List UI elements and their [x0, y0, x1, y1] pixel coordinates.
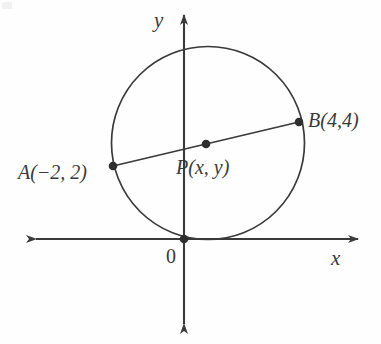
- point-b-label: B(4,4): [308, 110, 359, 130]
- point-b-marker: [295, 118, 304, 127]
- y-axis-label: y: [154, 10, 163, 31]
- point-p-label: P(x, y): [176, 157, 229, 177]
- geometry-figure: y x 0 A(−2, 2) B(4,4) P(x, y): [0, 0, 381, 344]
- origin-label: 0: [166, 246, 176, 266]
- point-a-marker: [109, 162, 118, 171]
- x-axis-label: x: [331, 248, 340, 269]
- point-p-marker: [202, 140, 211, 149]
- origin-marker: [180, 235, 189, 244]
- point-a-label: A(−2, 2): [18, 162, 87, 182]
